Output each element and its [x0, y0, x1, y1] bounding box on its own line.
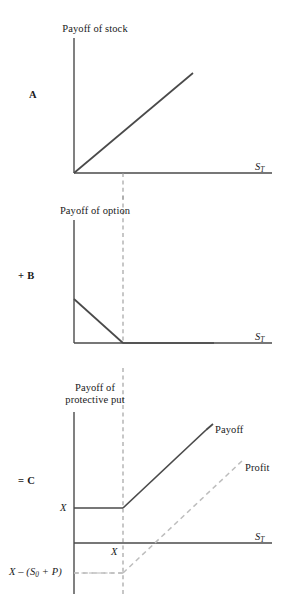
- panel-c-breakeven-main: X – (S: [9, 566, 35, 577]
- panel-c-operator-label: = C: [18, 475, 35, 488]
- panel-b-graphics: [74, 196, 272, 343]
- panel-a-stock-payoff-line: [74, 73, 193, 173]
- panel-c-y-tick-label: X: [60, 502, 67, 515]
- panel-a-operator-label: A: [29, 89, 37, 102]
- panel-b-x-axis-subscript: T: [260, 335, 264, 344]
- panel-c-x-axis-subscript: T: [260, 535, 264, 544]
- panel-c-y-axis-title-line1: Payoff of: [40, 382, 150, 395]
- panel-b-put-payoff-slope: [74, 299, 123, 343]
- panel-c-breakeven-tail: + P): [39, 566, 62, 577]
- panel-b-y-axis-title: Payoff of option: [30, 205, 160, 218]
- panel-c-payoff-leader: [206, 424, 213, 430]
- panel-c-profit-slope: [123, 460, 243, 573]
- panel-c-payoff-series-label: Payoff: [215, 424, 243, 437]
- panel-b-x-axis-label: ST: [255, 331, 265, 345]
- panel-c-x-tick-label: X: [111, 546, 118, 559]
- protective-put-figure: Payoff of stock A ST Payoff of option + …: [0, 0, 296, 611]
- panel-c-breakeven-label: X – (S0 + P): [9, 566, 62, 580]
- figure-canvas: [0, 0, 296, 611]
- panel-c-y-axis-title-line2: protective put: [40, 394, 150, 407]
- panel-a-x-axis-label: ST: [255, 161, 265, 175]
- panel-a-x-axis-subscript: T: [260, 165, 264, 174]
- panel-a-y-axis-title: Payoff of stock: [34, 23, 156, 36]
- panel-c-profit-series-label: Profit: [245, 462, 270, 475]
- panel-c-breakeven-subscript: 0: [35, 570, 39, 579]
- panel-b-operator-label: + B: [18, 270, 35, 283]
- panel-c-payoff-slope: [123, 430, 206, 508]
- panel-a-graphics: [74, 38, 272, 200]
- panel-c-x-axis-label: ST: [255, 531, 265, 545]
